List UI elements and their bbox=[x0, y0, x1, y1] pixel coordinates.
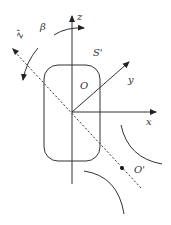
x-axis-label: x bbox=[146, 117, 152, 127]
upper-right-arc bbox=[121, 125, 162, 164]
origin-prime-label: O' bbox=[134, 165, 145, 175]
beta-rotation-arrow bbox=[54, 28, 84, 35]
z-prime-rotation-arrow bbox=[23, 48, 38, 80]
frame-s-prime-label: S' bbox=[93, 48, 103, 58]
z-axis-label: z bbox=[77, 12, 82, 22]
y-axis-label: y bbox=[128, 75, 134, 85]
diagram-canvas: z β z' S' y O x O' bbox=[0, 0, 171, 225]
origin-prime-point bbox=[120, 166, 124, 170]
z-prime-arrowhead bbox=[12, 48, 19, 55]
angle-beta-label: β bbox=[40, 22, 46, 32]
lower-arc bbox=[84, 171, 124, 214]
origin-label: O bbox=[80, 81, 88, 91]
diagram-svg bbox=[0, 0, 171, 225]
